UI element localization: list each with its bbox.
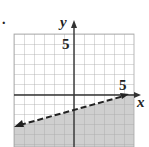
- x-tick-label: 5: [119, 77, 127, 94]
- y-axis-arrow-icon: [71, 20, 77, 28]
- marker-dot: .: [2, 12, 6, 28]
- y-tick-label: 5: [62, 36, 70, 53]
- y-axis-label: y: [60, 14, 67, 31]
- inequality-graph: [0, 0, 149, 147]
- x-axis-label: x: [137, 94, 145, 111]
